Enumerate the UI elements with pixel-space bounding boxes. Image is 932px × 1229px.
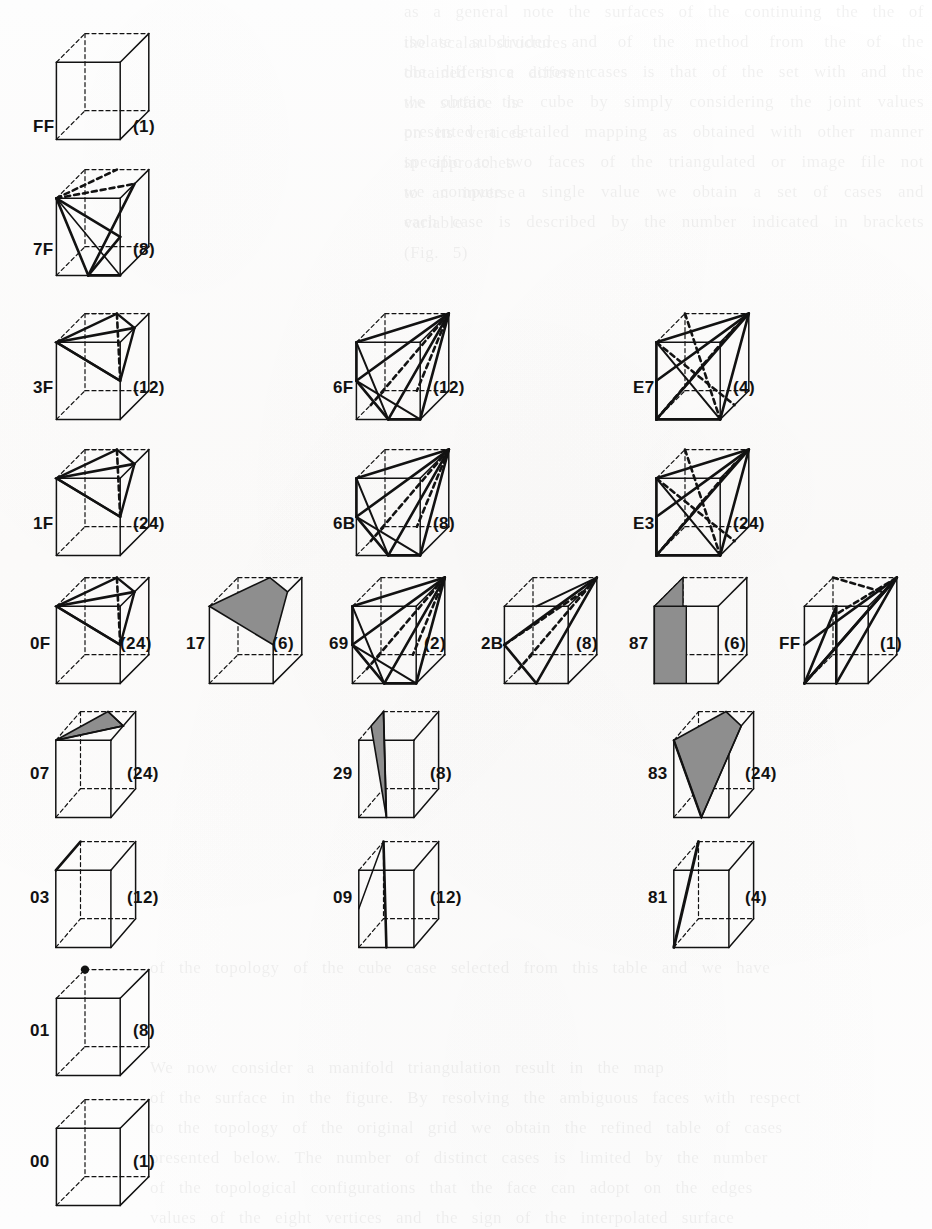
cube-wireframe-svg — [352, 296, 462, 426]
cube-case-e3-diagram — [652, 432, 762, 562]
cube-wireframe-svg — [52, 952, 162, 1082]
cube-case-code-label: FF — [779, 634, 801, 654]
cube-case-multiplicity-label: (6) — [724, 634, 746, 654]
cube-case-87-diagram — [650, 560, 760, 690]
cube-wireframe-svg — [652, 432, 762, 562]
cube-case-7f-diagram — [52, 152, 162, 282]
cube-case-multiplicity-label: (8) — [430, 764, 452, 784]
cube-case-multiplicity-label: (24) — [120, 634, 152, 654]
cube-case-ff-diagram — [800, 560, 910, 690]
cube-case-code-label: 00 — [30, 1152, 50, 1172]
cube-case-multiplicity-label: (12) — [133, 378, 165, 398]
cube-wireframe-svg — [52, 694, 147, 824]
cube-case-6f-diagram — [352, 296, 462, 426]
cube-wireframe-svg — [205, 560, 315, 690]
cube-case-multiplicity-label: (8) — [576, 634, 598, 654]
cube-case-code-label: 7F — [33, 240, 54, 260]
cube-case-multiplicity-label: (8) — [133, 240, 155, 260]
cube-wireframe-svg — [52, 432, 162, 562]
cube-case-29-diagram — [355, 694, 450, 824]
cube-case-multiplicity-label: (12) — [127, 888, 159, 908]
cube-case-multiplicity-label: (24) — [745, 764, 777, 784]
cube-case-83-diagram — [670, 694, 765, 824]
cube-case-code-label: 6F — [333, 378, 354, 398]
cube-case-multiplicity-label: (24) — [127, 764, 159, 784]
cube-case-e7-diagram — [652, 296, 762, 426]
cube-case-code-label: 1F — [33, 514, 54, 534]
cube-case-multiplicity-label: (8) — [133, 1021, 155, 1041]
cube-case-00-diagram — [52, 1082, 162, 1212]
cube-case-code-label: 81 — [648, 888, 668, 908]
cube-wireframe-svg — [670, 694, 765, 824]
cube-case-code-label: 09 — [333, 888, 353, 908]
marching-cubes-case-figure: FF(1)7F(8)3F(12)6F(12)E7(4)1F(24)6B(8)E3… — [0, 0, 932, 1229]
cube-case-code-label: 2B — [481, 634, 504, 654]
cube-case-1f-diagram — [52, 432, 162, 562]
cube-case-code-label: 83 — [648, 764, 668, 784]
cube-case-multiplicity-label: (12) — [430, 888, 462, 908]
cube-case-code-label: 01 — [30, 1021, 50, 1041]
cube-wireframe-svg — [500, 560, 610, 690]
cube-case-3f-diagram — [52, 296, 162, 426]
cube-case-6b-diagram — [352, 432, 462, 562]
cube-case-code-label: E3 — [633, 514, 655, 534]
cube-wireframe-svg — [800, 560, 910, 690]
cube-case-code-label: E7 — [633, 378, 655, 398]
cube-case-2b-diagram — [500, 560, 610, 690]
cube-case-multiplicity-label: (4) — [733, 378, 755, 398]
cube-wireframe-svg — [52, 296, 162, 426]
cube-case-multiplicity-label: (6) — [272, 634, 294, 654]
cube-wireframe-svg — [52, 152, 162, 282]
cube-case-multiplicity-label: (1) — [880, 634, 902, 654]
cube-wireframe-svg — [652, 296, 762, 426]
cube-wireframe-svg — [52, 560, 162, 690]
cube-case-code-label: 3F — [33, 378, 54, 398]
cube-case-07-diagram — [52, 694, 147, 824]
cube-case-multiplicity-label: (12) — [433, 378, 465, 398]
cube-case-code-label: FF — [33, 117, 55, 137]
cube-case-code-label: 0F — [30, 634, 51, 654]
cube-wireframe-svg — [348, 560, 458, 690]
cube-case-code-label: 17 — [186, 634, 206, 654]
cube-case-0f-diagram — [52, 560, 162, 690]
cube-case-code-label: 29 — [333, 764, 353, 784]
cube-case-multiplicity-label: (4) — [745, 888, 767, 908]
cube-case-code-label: 07 — [30, 764, 50, 784]
cube-case-multiplicity-label: (2) — [424, 634, 446, 654]
cube-case-17-diagram — [205, 560, 315, 690]
cube-case-code-label: 6B — [333, 514, 356, 534]
cube-wireframe-svg — [352, 432, 462, 562]
cube-wireframe-svg — [650, 560, 760, 690]
cube-case-01-diagram — [52, 952, 162, 1082]
cube-case-multiplicity-label: (1) — [133, 117, 155, 137]
cube-wireframe-svg — [355, 694, 450, 824]
cube-case-code-label: 03 — [30, 888, 50, 908]
cube-case-multiplicity-label: (8) — [433, 514, 455, 534]
cube-case-code-label: 87 — [629, 634, 649, 654]
cube-case-multiplicity-label: (24) — [733, 514, 765, 534]
cube-case-multiplicity-label: (24) — [133, 514, 165, 534]
cube-case-multiplicity-label: (1) — [133, 1152, 155, 1172]
cube-case-code-label: 69 — [329, 634, 349, 654]
cube-case-69-diagram — [348, 560, 458, 690]
cube-wireframe-svg — [52, 1082, 162, 1212]
